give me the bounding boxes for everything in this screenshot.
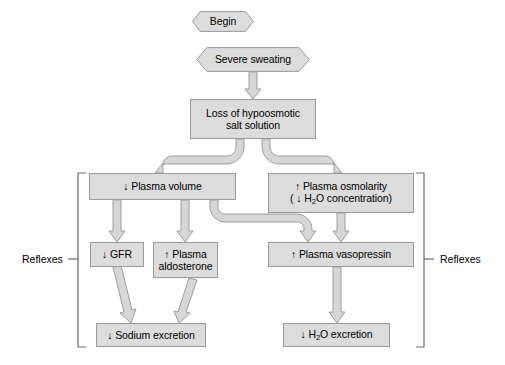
node-h2o-excretion[interactable]: ↓ H2O excretion <box>283 323 390 347</box>
node-plasma-osmolarity-label: ↑ Plasma osmolarity ( ↓ H2O concentratio… <box>286 180 396 207</box>
node-h2o-excretion-label: ↓ H2O excretion <box>296 328 376 343</box>
node-aldosterone-line2: aldosterone <box>159 260 213 272</box>
node-plasma-aldosterone[interactable]: ↑ Plasma aldosterone <box>153 242 218 278</box>
node-sodium-excretion-label: ↓ Sodium excretion <box>103 329 199 341</box>
flowchart-canvas: .conn{fill:#d6d6d6;stroke:#9d9d9d;stroke… <box>0 0 505 365</box>
node-plasma-vasopressin[interactable]: ↑ Plasma vasopressin <box>268 242 414 267</box>
node-aldosterone-line1: ↑ Plasma <box>164 248 206 260</box>
node-sodium-excretion[interactable]: ↓ Sodium excretion <box>96 323 206 347</box>
bracket-left <box>78 173 86 347</box>
reflexes-label-right: Reflexes <box>440 253 481 265</box>
edge-plasma-volume-to-aldosterone <box>177 200 193 242</box>
node-plasma-volume-label: ↓ Plasma volume <box>119 180 205 192</box>
node-loss-of-hypoosmotic-salt-solution[interactable]: Loss of hypoosmotic salt solution <box>190 99 316 139</box>
bracket-right <box>416 173 424 347</box>
edge-sweating-to-loss <box>245 72 261 99</box>
node-aldosterone-label: ↑ Plasma aldosterone <box>155 248 217 273</box>
reflexes-label-left: Reflexes <box>22 253 63 265</box>
node-osmolarity-line2: ( ↓ H2O concentration) <box>290 192 392 204</box>
node-begin[interactable]: Begin <box>192 11 254 32</box>
node-plasma-vasopressin-label: ↑ Plasma vasopressin <box>287 248 395 260</box>
edge-plasma-volume-to-gfr <box>109 200 125 242</box>
node-gfr[interactable]: ↓ GFR <box>90 242 144 267</box>
node-loss-line2: salt solution <box>226 119 280 131</box>
edge-loss-to-plasma-volume <box>155 139 244 173</box>
node-loss-label: Loss of hypoosmotic salt solution <box>202 107 304 132</box>
node-loss-line1: Loss of hypoosmotic <box>206 107 300 119</box>
edge-aldosterone-to-sodium-excretion <box>174 278 197 323</box>
node-gfr-label: ↓ GFR <box>98 248 136 260</box>
node-severe-sweating-label: Severe sweating <box>211 53 295 65</box>
reflexes-left-text: Reflexes <box>22 253 63 265</box>
node-plasma-osmolarity[interactable]: ↑ Plasma osmolarity ( ↓ H2O concentratio… <box>268 173 414 213</box>
node-osmolarity-line1: ↑ Plasma osmolarity <box>295 180 387 192</box>
edge-gfr-to-sodium-excretion <box>113 265 136 323</box>
edge-osmolarity-to-vasopressin <box>333 213 349 242</box>
node-begin-label: Begin <box>206 15 240 27</box>
node-plasma-volume[interactable]: ↓ Plasma volume <box>89 173 236 200</box>
edge-loss-to-osmolarity <box>262 139 342 173</box>
node-severe-sweating[interactable]: Severe sweating <box>196 47 310 72</box>
reflexes-right-text: Reflexes <box>440 253 481 265</box>
edge-vasopressin-to-h2o-excretion <box>329 267 345 323</box>
